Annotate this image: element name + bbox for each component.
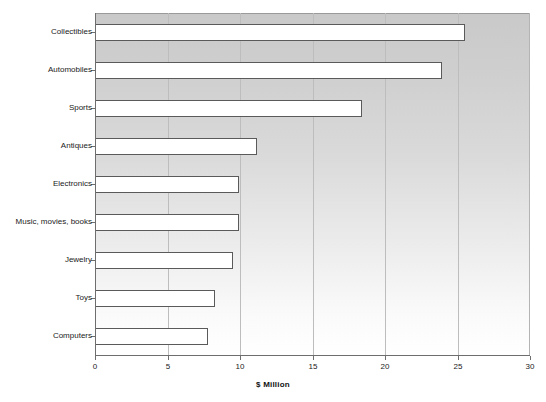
bar [95, 24, 465, 41]
x-tick [95, 356, 96, 360]
x-tick-label: 5 [148, 362, 188, 372]
bar [95, 328, 208, 345]
category-label: Collectibles [51, 27, 92, 36]
bar-chart: CollectiblesAutomobilesSportsAntiquesEle… [0, 0, 546, 402]
bar [95, 252, 233, 269]
bar [95, 214, 239, 231]
x-tick-label: 15 [293, 362, 333, 372]
category-label: Jewelry [65, 255, 92, 264]
category-label: Music, movies, books [16, 217, 92, 226]
bar [95, 176, 239, 193]
category-label: Electronics [53, 179, 92, 188]
bar [95, 138, 257, 155]
x-axis-title: $ Million [0, 380, 546, 389]
category-label: Automobiles [48, 65, 92, 74]
category-label: Antiques [61, 141, 92, 150]
category-label: Toys [76, 293, 92, 302]
bar [95, 62, 442, 79]
plot-right-border [529, 13, 530, 355]
y-axis-line [95, 13, 96, 356]
x-tick [313, 356, 314, 360]
x-tick-label: 10 [220, 362, 260, 372]
x-tick [530, 356, 531, 360]
gridline-25 [458, 13, 459, 355]
x-tick [168, 356, 169, 360]
x-tick [240, 356, 241, 360]
x-tick [385, 356, 386, 360]
x-tick-label: 25 [438, 362, 478, 372]
bar [95, 290, 215, 307]
x-tick [458, 356, 459, 360]
x-tick-label: 30 [510, 362, 546, 372]
x-tick-label: 0 [75, 362, 115, 372]
category-label: Computers [53, 331, 92, 340]
category-label: Sports [69, 103, 92, 112]
x-tick-label: 20 [365, 362, 405, 372]
bar [95, 100, 362, 117]
